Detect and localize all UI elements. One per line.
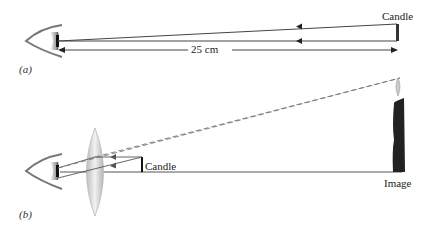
candle-label-a: Candle <box>382 10 413 22</box>
image-label: Image <box>384 177 411 189</box>
arrow-head <box>296 38 302 44</box>
image-candle <box>393 78 405 172</box>
flame-icon <box>396 78 400 96</box>
eye-icon <box>26 154 62 189</box>
candle-small <box>396 24 399 41</box>
ray-top <box>58 24 397 41</box>
panel-label-a: (a) <box>19 63 32 75</box>
panel-label-b: (b) <box>19 208 32 220</box>
eye-icon <box>26 25 62 57</box>
arrow-head <box>110 163 116 169</box>
diagram-canvas <box>0 0 436 231</box>
magnifying-lens <box>87 128 104 216</box>
arrow-head-right <box>391 47 398 53</box>
panel-b <box>26 78 405 216</box>
dashed-ray-top <box>58 78 400 168</box>
distance-label: 25 cm <box>191 43 218 55</box>
candle-label-b: Candle <box>145 160 176 172</box>
arrow-head-left <box>58 47 65 53</box>
dashed-ray-bottom <box>95 78 400 157</box>
arrow-head <box>110 154 116 160</box>
